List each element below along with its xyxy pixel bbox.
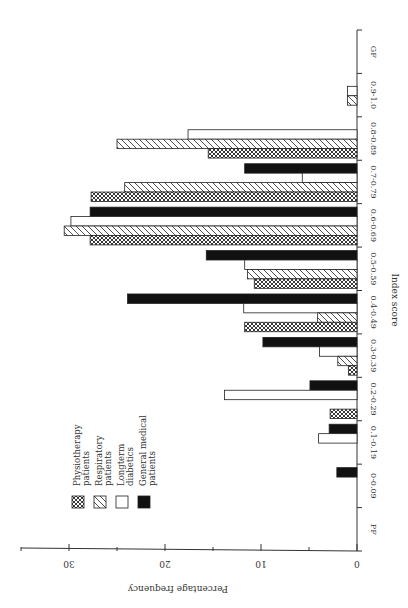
bar: [64, 226, 357, 235]
value-tick-label: 30: [63, 559, 75, 569]
legend-swatch: [94, 496, 106, 508]
bar: [248, 269, 357, 278]
bar: [347, 86, 357, 95]
bars: [64, 86, 357, 477]
bar: [263, 337, 357, 346]
bar: [318, 313, 357, 322]
legend-label: Longtermdiabetics: [116, 444, 135, 486]
bar: [338, 356, 357, 365]
category-label: 0.5-0.59: [369, 252, 378, 285]
chart: 0102030PF0-0.090.1-0.190.2-0.290.3-0.390…: [0, 0, 408, 608]
bar: [329, 424, 357, 433]
bar: [302, 173, 357, 182]
legend-swatch: [116, 496, 128, 508]
bar: [244, 303, 357, 312]
category-label: 0.4-0.49: [369, 296, 378, 329]
category-label: 0.6-0.69: [369, 209, 378, 242]
bar: [245, 260, 357, 269]
legend-swatch: [72, 496, 84, 508]
bar: [125, 183, 357, 192]
legend-label: Physiotherapypatients: [72, 424, 91, 486]
legend: PhysiotherapypatientsRespiratorypatients…: [72, 415, 157, 508]
bar: [310, 381, 357, 390]
bar: [320, 347, 357, 356]
bar: [188, 130, 357, 139]
bar: [245, 322, 357, 331]
bar: [128, 294, 357, 303]
bar: [90, 235, 357, 244]
category-label: 0.9-1.0: [369, 81, 378, 109]
bar: [117, 139, 357, 148]
category-label: 0-0.09: [369, 473, 378, 499]
category-label: PF: [369, 524, 378, 535]
bar-chart-svg: 0102030PF0-0.090.1-0.190.2-0.290.3-0.390…: [0, 0, 408, 608]
bar: [330, 409, 357, 418]
legend-label: Respiratorypatients: [94, 435, 113, 486]
bar: [319, 434, 357, 443]
legend-swatch: [138, 496, 150, 508]
legend-label: General medicalpatients: [138, 415, 157, 486]
value-axis-line: [21, 548, 357, 551]
category-label: GF: [369, 46, 378, 58]
bar: [90, 207, 357, 216]
value-tick-label: 0: [354, 559, 360, 569]
bar: [348, 366, 357, 375]
bar: [225, 390, 357, 399]
y-axis-label: Percentage frequency: [127, 584, 228, 594]
category-label: 0.8-0.89: [369, 122, 378, 155]
value-tick-label: 20: [159, 559, 171, 569]
x-axis-label: Index score: [390, 273, 400, 326]
category-label: 0.3-0.39: [369, 339, 378, 372]
category-label: 0.7-0.79: [369, 165, 378, 198]
bar: [208, 149, 357, 158]
bar: [337, 468, 357, 477]
bar: [245, 164, 357, 173]
category-label: 0.2-0.29: [369, 382, 378, 415]
bar: [347, 96, 357, 105]
bar: [254, 279, 357, 288]
bar: [206, 251, 357, 260]
category-label: 0.1-0.19: [369, 426, 378, 459]
bar: [91, 192, 357, 201]
value-tick-label: 10: [255, 559, 267, 569]
bar: [71, 217, 357, 226]
